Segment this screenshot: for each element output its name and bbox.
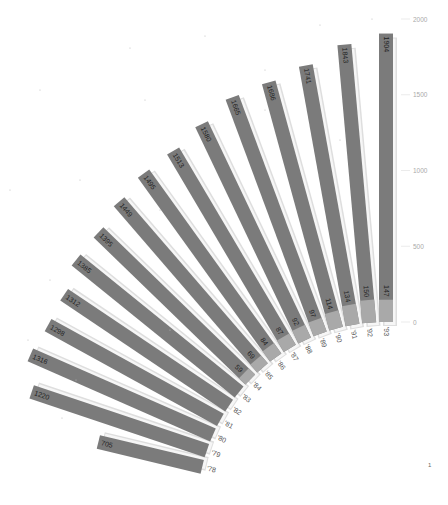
decor-dot: [75, 379, 76, 380]
axis-tick-label: 2000: [413, 16, 428, 23]
decor-dot: [27, 339, 28, 340]
axis-tick-label: 0: [413, 319, 417, 326]
year-label: '92: [366, 327, 374, 337]
year-label: '78: [206, 465, 217, 474]
decor-dot: [144, 99, 145, 100]
year-label: '86: [276, 360, 287, 372]
year-label: '89: [319, 337, 329, 348]
decor-dot: [61, 417, 62, 418]
inner-value-label: 150: [362, 285, 370, 297]
radial-bar-chart: 0500100015002000705'781220'791316'801298…: [0, 0, 448, 505]
decor-dot: [9, 189, 10, 190]
year-label: '93: [383, 327, 390, 336]
year-label: '90: [334, 333, 343, 344]
bar-group: 1471904'93: [379, 34, 397, 337]
axis-tick-label: 1500: [413, 91, 428, 98]
year-label: '87: [289, 351, 300, 363]
year-label: '80: [216, 434, 227, 444]
year-label: '79: [210, 449, 221, 459]
decor-dot: [49, 279, 50, 280]
decor-dot: [169, 329, 170, 330]
decor-dot: [39, 89, 40, 90]
decor-dot: [79, 179, 80, 180]
bar-inner-segment: [379, 300, 393, 322]
decor-dot: [159, 209, 160, 210]
axis-tick-label: 1000: [413, 167, 428, 174]
decor-dot: [371, 18, 372, 19]
decor-dot: [319, 24, 320, 25]
decor-dot: [107, 243, 108, 244]
year-label: '81: [223, 419, 234, 430]
bar: [379, 34, 393, 322]
axis-tick-label: 500: [413, 243, 424, 250]
decor-dot: [264, 109, 265, 110]
decor-dot: [264, 69, 265, 70]
corner-mark: 1: [428, 462, 431, 468]
inner-value-label: 147: [383, 285, 390, 297]
year-label: '88: [304, 343, 314, 354]
year-label: '91: [350, 329, 359, 339]
decor-dot: [204, 35, 205, 36]
total-value-label: 1843: [341, 47, 349, 63]
decor-dot: [129, 47, 130, 48]
bar-inner-segment: [360, 299, 376, 323]
decor-dot: [339, 139, 340, 140]
total-value-label: 1904: [383, 37, 390, 53]
year-label: '82: [231, 405, 243, 416]
